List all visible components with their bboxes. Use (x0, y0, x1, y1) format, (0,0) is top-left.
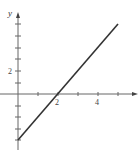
y-axis-label: y (7, 8, 12, 18)
x-tick-label-4: 4 (95, 98, 99, 107)
data-line (18, 24, 118, 140)
y-tick-label-2: 2 (8, 67, 12, 76)
line-chart: y 2 4 2 (0, 0, 138, 153)
x-tick-label-2: 2 (55, 98, 59, 107)
y-axis-arrow-icon (16, 12, 20, 18)
x-axis-arrow-icon (132, 92, 138, 96)
